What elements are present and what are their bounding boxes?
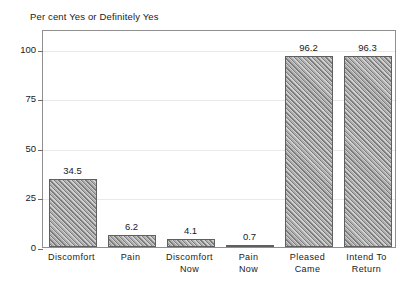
bar-slot: 34.5: [49, 31, 97, 247]
bar-slot: 6.2: [108, 31, 156, 247]
y-tick-mark: [38, 249, 43, 250]
bar-value-label: 4.1: [184, 225, 197, 236]
x-axis: DiscomfortPainDiscomfort NowPain NowPlea…: [42, 252, 396, 292]
y-tick-mark: [38, 199, 43, 200]
bar-value-label: 34.5: [63, 165, 82, 176]
bar-slot: 96.2: [285, 31, 333, 247]
bar-value-label: 6.2: [125, 221, 138, 232]
x-tick-label: Discomfort: [42, 252, 101, 264]
x-tick-label: Pain: [101, 252, 160, 264]
plot-area: 34.56.24.10.796.296.3: [43, 31, 395, 247]
bar-slot: 4.1: [167, 31, 215, 247]
y-tick-label: 50: [25, 143, 36, 154]
bar-value-label: 96.2: [299, 42, 318, 53]
bar[interactable]: [49, 179, 97, 247]
bar-chart-figure: Per cent Yes or Definitely Yes 025507510…: [0, 0, 419, 294]
y-tick-mark: [38, 51, 43, 52]
y-tick-mark: [38, 150, 43, 151]
x-tick-label: Pain Now: [219, 252, 278, 275]
y-tick-label: 75: [25, 93, 36, 104]
x-tick-label: Pleased Came: [278, 252, 337, 275]
x-tick-label: Discomfort Now: [160, 252, 219, 275]
y-axis: 0255075100: [8, 30, 36, 248]
bar-value-label: 0.7: [243, 231, 256, 242]
bar[interactable]: [285, 56, 333, 247]
y-tick-label: 0: [31, 242, 36, 253]
chart-title: Per cent Yes or Definitely Yes: [30, 11, 159, 22]
bar-slot: 96.3: [344, 31, 392, 247]
bar-value-label: 96.3: [358, 42, 377, 53]
bar[interactable]: [167, 239, 215, 247]
bar-slot: 0.7: [226, 31, 274, 247]
y-tick-label: 100: [20, 44, 36, 55]
bar[interactable]: [226, 245, 274, 247]
y-tick-mark: [38, 100, 43, 101]
bar[interactable]: [344, 56, 392, 247]
x-tick-label: Intend To Return: [337, 252, 396, 275]
plot-frame: 34.56.24.10.796.296.3: [42, 30, 396, 248]
bar[interactable]: [108, 235, 156, 247]
y-tick-label: 25: [25, 192, 36, 203]
